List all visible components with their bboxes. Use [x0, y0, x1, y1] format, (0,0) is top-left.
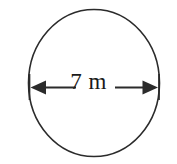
circle-diagram-figure: 7 m: [0, 0, 177, 164]
dimension-label: 7 m: [0, 67, 177, 97]
